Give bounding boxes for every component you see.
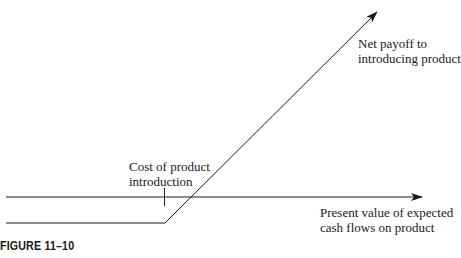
cost-label-line-1: Cost of product xyxy=(129,159,210,174)
axis-label-line-1: Present value of expected xyxy=(320,205,453,220)
axis-label-line-2: cash flows on product xyxy=(320,220,453,235)
payoff-line xyxy=(6,12,377,223)
payoff-label-line-2: introducing product xyxy=(358,51,461,66)
cost-label: Cost of product introduction xyxy=(129,159,210,189)
axis-label: Present value of expected cash flows on … xyxy=(320,205,453,235)
payoff-label-line-1: Net payoff to xyxy=(358,36,461,51)
cost-label-line-2: introduction xyxy=(129,174,210,189)
figure-caption: FIGURE 11–10 xyxy=(0,238,74,253)
payoff-label: Net payoff to introducing product xyxy=(358,36,461,66)
